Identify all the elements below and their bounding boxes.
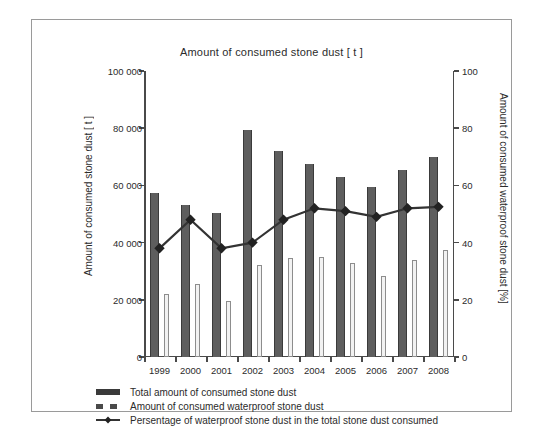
y-left-tick-label: 60 000 (113, 180, 142, 191)
percentage-data-point (309, 203, 319, 213)
y-right-tick-label: 40 (462, 237, 473, 248)
chart-title: Amount of consumed stone dust [ t ] (32, 46, 511, 58)
percentage-data-point (371, 212, 381, 222)
plot-area: 020 00040 00060 00080 000100 000 0204060… (144, 71, 454, 357)
y-right-tick-label: 60 (462, 180, 473, 191)
legend-item-percentage: Persentage of waterproof stone dust in t… (95, 413, 495, 427)
legend-item-waterproof: Amount of consumed waterproof stone dust (95, 399, 495, 413)
legend-label-total: Total amount of consumed stone dust (130, 387, 296, 398)
y-left-tick-label: 100 000 (108, 66, 142, 77)
y-right-tick (454, 185, 459, 187)
y-left-tick-label: 40 000 (113, 237, 142, 248)
x-axis-label: 1999 (149, 365, 170, 376)
x-axis-label: 2006 (366, 365, 387, 376)
x-axis-label: 2005 (335, 365, 356, 376)
x-axis-label: 2008 (428, 365, 449, 376)
y-right-tick-label: 0 (462, 352, 467, 363)
y-axis-left-title: Amount of consumed stone dust [ t ] (83, 116, 94, 276)
percentage-line-series (144, 71, 454, 357)
legend-label-waterproof: Amount of consumed waterproof stone dust (130, 401, 323, 412)
percentage-data-point (433, 202, 443, 212)
chart-legend: Total amount of consumed stone dust Amou… (95, 385, 495, 427)
y-left-tick-label: 20 000 (113, 294, 142, 305)
chart-frame: Amount of consumed stone dust [ t ] Amou… (31, 19, 512, 412)
legend-item-total: Total amount of consumed stone dust (95, 385, 495, 399)
x-axis-label: 2003 (273, 365, 294, 376)
y-right-tick (454, 70, 459, 72)
y-right-tick (454, 127, 459, 129)
legend-label-percentage: Persentage of waterproof stone dust in t… (130, 415, 438, 426)
x-axis-tick (423, 357, 425, 362)
y-left-tick-label: 0 (137, 352, 142, 363)
x-axis-tick (268, 357, 270, 362)
y-right-tick (454, 242, 459, 244)
percentage-data-point (340, 206, 350, 216)
x-axis-tick (237, 357, 239, 362)
x-axis-tick (175, 357, 177, 362)
x-axis-tick (330, 357, 332, 362)
chart-screenshot: Amount of consumed stone dust [ t ] Amou… (0, 0, 535, 440)
x-axis-tick (144, 357, 146, 362)
x-axis-label: 2000 (180, 365, 201, 376)
x-axis-label: 2007 (397, 365, 418, 376)
percentage-data-point (402, 203, 412, 213)
x-axis-tick (454, 357, 456, 362)
y-right-tick-label: 80 (462, 123, 473, 134)
x-axis-tick (299, 357, 301, 362)
x-axis-tick (206, 357, 208, 362)
y-right-tick (454, 299, 459, 301)
percentage-line-path (160, 207, 439, 248)
x-axis-tick (361, 357, 363, 362)
x-axis-label: 2004 (304, 365, 325, 376)
solid-bar-marker-icon (95, 389, 121, 395)
x-axis-tick (392, 357, 394, 362)
y-axis-right-title: Amount of consumed waterproof stone dust… (498, 93, 509, 304)
y-right-tick-label: 100 (462, 66, 478, 77)
line-diamond-marker-icon (95, 416, 121, 424)
x-axis-label: 2001 (211, 365, 232, 376)
x-axis-label: 2002 (242, 365, 263, 376)
y-left-tick-label: 80 000 (113, 123, 142, 134)
dashed-bar-marker-icon (95, 404, 121, 409)
y-right-tick-label: 20 (462, 294, 473, 305)
